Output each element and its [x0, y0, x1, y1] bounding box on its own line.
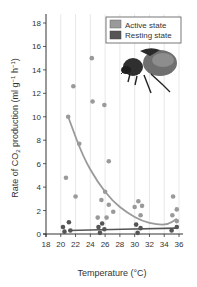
data-point-resting: [135, 231, 140, 236]
data-point-active: [77, 141, 82, 146]
data-point-active: [111, 209, 116, 214]
trend-lines: [68, 117, 177, 231]
y-tick-label: 2: [37, 207, 42, 216]
co2-production-chart: 02468101214161818202224262830323436 Acti…: [0, 0, 197, 287]
x-axis-label: Temperature (°C): [77, 268, 146, 278]
y-tick-label: 12: [32, 89, 41, 98]
data-point-active: [95, 215, 100, 220]
data-point-active: [174, 219, 179, 224]
x-tick-label: 32: [145, 240, 154, 249]
data-point-active: [73, 194, 78, 199]
data-point-active: [102, 103, 107, 108]
data-point-active: [103, 190, 108, 195]
x-tick-label: 20: [56, 240, 65, 249]
x-tick-label: 26: [101, 240, 110, 249]
trend-line-active: [68, 117, 177, 225]
data-point-resting: [138, 226, 143, 231]
legend-swatch-active: [110, 20, 121, 28]
data-point-resting: [169, 228, 174, 233]
beetle-illustration-icon: [121, 48, 177, 93]
x-tick-label: 36: [175, 240, 184, 249]
y-tick-label: 10: [32, 113, 41, 122]
data-point-active: [138, 213, 143, 218]
data-point-resting: [98, 231, 103, 236]
y-tick-label: 4: [37, 183, 42, 192]
data-point-active: [99, 198, 104, 203]
axes: 02468101214161818202224262830323436: [32, 14, 184, 249]
y-tick-label: 18: [32, 19, 41, 28]
data-point-active: [136, 199, 141, 204]
data-point-resting: [68, 228, 73, 233]
data-point-resting: [62, 229, 67, 234]
data-point-active: [90, 56, 95, 61]
data-point-active: [171, 194, 176, 199]
data-point-active: [140, 204, 145, 209]
data-point-active: [174, 207, 179, 212]
x-tick-label: 24: [86, 240, 95, 249]
x-tick-label: 18: [42, 240, 51, 249]
vertical-gridlines: [61, 14, 179, 234]
data-point-resting: [102, 227, 107, 232]
data-point-resting: [134, 222, 139, 227]
x-tick-label: 34: [160, 240, 169, 249]
y-tick-label: 8: [37, 136, 42, 145]
y-tick-label: 0: [37, 230, 42, 239]
x-tick-label: 22: [71, 240, 80, 249]
legend: Active state Resting state: [106, 17, 181, 43]
y-tick-label: 16: [32, 42, 41, 51]
data-point-resting: [100, 221, 105, 226]
trend-line-resting: [68, 228, 177, 230]
data-point-resting: [67, 220, 72, 225]
data-point-active: [170, 213, 175, 218]
data-point-active: [71, 84, 76, 89]
data-point-active: [132, 205, 137, 210]
x-tick-label: 30: [130, 240, 139, 249]
data-point-active: [104, 215, 109, 220]
legend-label-resting: Resting state: [125, 31, 172, 40]
x-tick-label: 28: [115, 240, 124, 249]
y-axis-label: Rate of CO2 production (ml g−1 h−1): [10, 58, 21, 198]
legend-label-active: Active state: [125, 21, 167, 30]
data-point-active: [107, 202, 112, 207]
legend-swatch-resting: [110, 31, 121, 39]
data-point-active: [107, 159, 112, 164]
data-point-resting: [174, 225, 179, 230]
data-point-active: [64, 175, 69, 180]
y-tick-label: 6: [37, 160, 42, 169]
data-point-resting: [61, 225, 66, 230]
data-point-resting: [96, 225, 101, 230]
y-tick-label: 14: [32, 66, 41, 75]
data-point-active: [90, 99, 95, 104]
data-point-active: [66, 114, 71, 119]
